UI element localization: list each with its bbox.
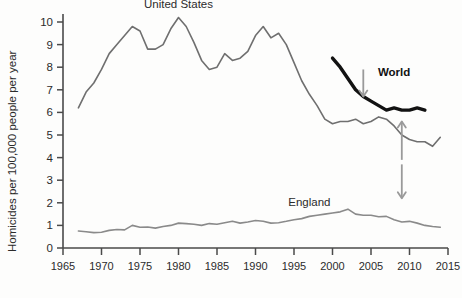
x-axis-tick-label: 1975 — [128, 260, 152, 272]
gap-arrow-down — [398, 164, 406, 198]
x-axis: 1965197019751980198519901995200020052010… — [51, 248, 460, 272]
y-axis-tick-label: 7 — [47, 84, 53, 96]
y-axis-tick-label: 1 — [47, 219, 53, 231]
y-axis-tick-label: 2 — [47, 197, 53, 209]
homicide-rate-line-chart: Homicides per 100,000 people per year 01… — [0, 0, 462, 298]
y-axis-tick-label: 6 — [47, 106, 53, 118]
x-axis-tick-label: 1990 — [243, 260, 267, 272]
y-axis-tick-label: 3 — [47, 174, 53, 186]
x-axis-tick-label: 1980 — [166, 260, 190, 272]
x-axis-tick-label: 2005 — [359, 260, 383, 272]
gap-arrow-up — [398, 121, 406, 159]
y-axis-tick-label: 4 — [47, 152, 54, 164]
world-pointer-arrow — [359, 69, 367, 96]
chart-figure: Homicides per 100,000 people per year 01… — [0, 0, 462, 298]
series-label-united-states: United States — [144, 0, 213, 10]
x-axis-tick-label: 1970 — [89, 260, 113, 272]
series-label-world: World — [378, 66, 410, 78]
x-axis-tick-label: 1995 — [282, 260, 306, 272]
series-line-england — [78, 209, 440, 233]
y-axis-tick-label: 8 — [47, 61, 53, 73]
annotation-layer — [359, 69, 406, 198]
y-axis: 012345678910 — [40, 14, 63, 254]
x-axis-tick-label: 2000 — [320, 260, 344, 272]
y-axis-tick-label: 9 — [47, 39, 53, 51]
series-label-england: England — [288, 196, 330, 208]
y-axis-title: Homicides per 100,000 people per year — [6, 50, 18, 252]
series-label-layer: United StatesWorldEngland — [144, 0, 410, 208]
x-axis-tick-label: 2010 — [397, 260, 421, 272]
series-layer — [78, 17, 440, 232]
x-axis-tick-label: 1965 — [51, 260, 75, 272]
y-axis-tick-label: 10 — [40, 16, 53, 28]
y-axis-tick-label: 0 — [47, 242, 53, 254]
y-axis-tick-label: 5 — [47, 129, 53, 141]
y-axis-title-group: Homicides per 100,000 people per year — [6, 50, 18, 252]
x-axis-tick-label: 2015 — [436, 260, 460, 272]
x-axis-tick-label: 1985 — [205, 260, 229, 272]
series-line-united-states — [78, 17, 440, 146]
